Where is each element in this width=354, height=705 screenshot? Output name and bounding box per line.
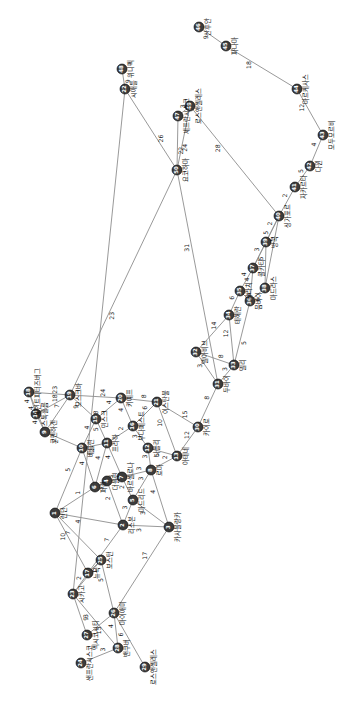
graph-edge [125, 89, 177, 170]
edge-weight-label: 6 [141, 406, 148, 410]
edge-weight-label: 7 [53, 404, 60, 408]
graph-node-label: 세프란시스코 [182, 98, 191, 134]
graph-node-label: 로스앤젤레스 [194, 88, 203, 124]
graph-node-label: 로스앤젤레스 [149, 649, 158, 685]
graph-node-id: 27 [83, 631, 89, 639]
edge-weight-label: 17 [141, 552, 148, 560]
graph-node-label: 민스크 [100, 410, 109, 428]
graph-node-id: 43 [319, 131, 325, 139]
graph-node-label: 위니펙 [126, 60, 135, 78]
graph-node-id: 42 [306, 162, 312, 170]
edge-weight-label: 4 [74, 519, 81, 523]
graph-edge [151, 470, 169, 527]
graph-node-label: 베를린 [86, 439, 95, 457]
graph-node-id: 44 [293, 85, 299, 93]
edge-weight-label: 24 [181, 144, 188, 152]
graph-node-label: 멕시코시티 [91, 620, 100, 650]
edge-weights-layer: 9181245224535446461214583381512810624442… [23, 35, 317, 651]
graph-node-id: 25 [97, 556, 103, 564]
graph-edge [70, 170, 177, 395]
graph-node-id: 22 [121, 85, 127, 93]
graph-node-id: 19 [66, 391, 72, 399]
graph-node-label: 산후안 [203, 18, 212, 36]
graph-node-label: 리스본 [127, 516, 136, 534]
graph-node-label: 모두모르비 [327, 120, 336, 150]
edge-weight-label: 3 [137, 477, 144, 481]
graph-node-label: 프라하 [111, 434, 120, 452]
edge-weight-label: 12 [222, 329, 229, 337]
graph-edge [190, 106, 279, 216]
graph-node-label: 마드라스 [269, 276, 278, 300]
edge-weight-label: 5 [262, 231, 269, 235]
edge-weight-label: 6 [228, 296, 235, 300]
node-labels-layer: 런던리스본카사블랑카더블린마드리드파리바르셀로나로마코펜하겐베를린프라하나폴리아… [33, 18, 336, 685]
graph-node-id: 40 [275, 212, 281, 220]
edge-weight-label: 31 [183, 244, 190, 252]
graph-edge [55, 513, 88, 573]
graph-node-label: 테헤란 [233, 306, 242, 324]
edge-weight-label: 4 [117, 408, 124, 412]
graph-node-label: 마르케사스 [301, 74, 310, 104]
graph-node-id: 30 [194, 423, 200, 431]
graph-node-id: 6 [91, 485, 97, 489]
graph-node-label: 세인트피터즈버그 [33, 368, 42, 416]
graph-node-id: 45 [222, 42, 228, 50]
graph-node-id: 46 [195, 23, 201, 31]
graph-node-id: 47 [174, 112, 180, 120]
edge-weight-label: 2 [105, 496, 112, 500]
edge-weight-label: 2 [75, 576, 82, 580]
edge-weight-label: 2 [281, 193, 288, 197]
graph-node-id: 1 [51, 511, 57, 515]
graph-node-label: 카이로 [202, 418, 211, 436]
edge-weight-label: 3 [141, 454, 148, 458]
edge-weight-label: 18 [245, 61, 252, 69]
edge-weight-label: 7 [103, 538, 110, 542]
edge-weight-label: 1 [74, 491, 81, 495]
edge-weight-label: 4 [78, 461, 85, 465]
graph-node-id: 16 [129, 422, 135, 430]
edge-weight-label: 12 [183, 431, 190, 439]
graph-node-id: 2 [119, 523, 125, 527]
edge-weight-label: 4 [107, 624, 114, 628]
edge-weight-label: 15 [181, 410, 188, 418]
edge-weight-label: 10 [59, 533, 66, 541]
graph-node-label: 파나마 [230, 37, 239, 55]
graph-node-label: 자카르타 [299, 175, 308, 199]
edge-weight-label: 23 [108, 312, 115, 320]
graph-edge [229, 315, 234, 365]
graph-node-label: 키예프 [125, 389, 134, 407]
graph-node-id: 11 [103, 439, 109, 447]
nodes-layer: 1234567891011121314151617181920212223242… [24, 22, 328, 672]
graph-node-label: 시카고 [77, 585, 86, 603]
graph-node-label: 더블린 [111, 472, 120, 490]
edge-weight-label: 3 [253, 247, 260, 251]
edge-weight-label: 5 [297, 169, 304, 173]
edge-weight-label: 5 [64, 468, 71, 472]
graph-node-id: 12 [144, 444, 150, 452]
graph-node-id: 39 [262, 238, 268, 246]
graph-node-id: 20 [117, 394, 123, 402]
graph-node-id: 32 [192, 348, 198, 356]
graph-node-id: 29 [141, 663, 147, 671]
graph-node-id: 8 [147, 468, 153, 472]
graph-node-label: 시애틀 [129, 80, 138, 98]
graph-node-label: 두바이 [222, 375, 231, 393]
graph-node-id: 18 [25, 388, 31, 396]
graph-node-id: 41 [291, 183, 297, 191]
graph-node-label: 요코하마 [181, 158, 190, 182]
edge-weight-label: 9 [82, 617, 89, 621]
graph-node-label: 콜카타 [257, 259, 266, 277]
edge-weight-label: 23 [51, 386, 58, 394]
graph-node-label: 뭄바이 [254, 292, 263, 310]
graph-node-id: 23 [69, 590, 75, 598]
edge-weight-label: 2 [161, 455, 168, 459]
edge-weight-label: 3 [135, 466, 142, 470]
graph-node-label: 나폴리 [152, 439, 161, 457]
graph-node-label: 카사블랑카 [173, 512, 182, 542]
graph-node-label: 마이애미 [118, 601, 127, 625]
edge-weight-label: 3 [121, 505, 128, 509]
edge-weight-label: 4 [105, 400, 112, 404]
edge-weight-label: 5 [240, 341, 247, 345]
graph-node-id: 38 [261, 284, 267, 292]
graph-node-label: 파리 [99, 481, 108, 493]
